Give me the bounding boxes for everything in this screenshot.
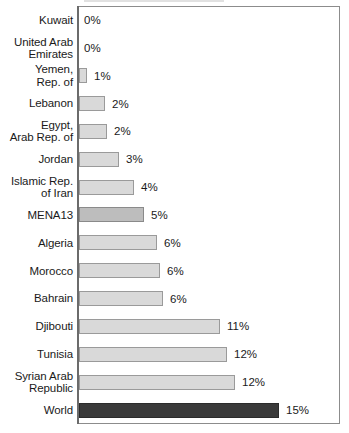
bar-row: World15% — [0, 396, 349, 424]
bar-row: Jordan3% — [0, 145, 349, 173]
bar-value-label: 2% — [114, 125, 131, 137]
category-label: Yemen, Rep. of — [0, 63, 73, 87]
scan-artifact-line — [84, 0, 224, 2]
category-label: Djibouti — [0, 320, 73, 332]
bar-row: Bahrain6% — [0, 285, 349, 313]
bar-and-value: 0% — [79, 12, 101, 28]
bar-row: MENA135% — [0, 201, 349, 229]
bar-value-label: 11% — [227, 320, 249, 332]
bar — [79, 319, 220, 334]
bar-and-value: 12% — [79, 346, 257, 362]
bar-and-value: 11% — [79, 318, 249, 334]
bar-and-value: 3% — [79, 151, 143, 167]
category-label: Islamic Rep. of Iran — [0, 175, 73, 199]
bar — [79, 375, 235, 390]
bar-and-value: 6% — [79, 235, 181, 251]
bar-and-value: 2% — [79, 96, 129, 112]
bar-value-label: 12% — [234, 348, 257, 360]
bar-row: Egypt, Arab Rep. of2% — [0, 117, 349, 145]
bar-and-value: 6% — [79, 263, 184, 279]
bar — [79, 207, 144, 222]
category-label: Syrian Arab Republic — [0, 370, 73, 394]
bar-and-value: 15% — [79, 402, 309, 418]
bar-value-label: 1% — [94, 70, 111, 82]
category-label: Kuwait — [0, 14, 73, 26]
bar — [79, 124, 107, 139]
bar — [79, 235, 157, 250]
bar-value-label: 5% — [151, 209, 168, 221]
category-label: MENA13 — [0, 209, 73, 221]
bar — [79, 180, 134, 195]
bar — [79, 96, 105, 111]
category-label: Morocco — [0, 265, 73, 277]
category-label: Bahrain — [0, 292, 73, 304]
bar-row: Yemen, Rep. of1% — [0, 62, 349, 90]
bar-value-label: 2% — [112, 98, 129, 110]
bar — [79, 347, 227, 362]
category-label: Tunisia — [0, 348, 73, 360]
bar-value-label: 15% — [286, 404, 309, 416]
bar-and-value: 0% — [79, 40, 101, 56]
bar-row: Morocco6% — [0, 257, 349, 285]
bar-row: Algeria6% — [0, 229, 349, 257]
bar-row: Tunisia12% — [0, 340, 349, 368]
bar-value-label: 6% — [170, 293, 187, 305]
category-label: World — [0, 404, 73, 416]
category-label: Jordan — [0, 153, 73, 165]
bar — [79, 403, 279, 418]
bar-and-value: 6% — [79, 291, 187, 307]
bar-value-label: 4% — [141, 181, 158, 193]
bar-and-value: 4% — [79, 179, 158, 195]
bar-value-label: 3% — [126, 153, 143, 165]
category-label: Egypt, Arab Rep. of — [0, 119, 73, 143]
bar-row: Lebanon2% — [0, 90, 349, 118]
bar-value-label: 6% — [164, 237, 181, 249]
bar-row: Djibouti11% — [0, 313, 349, 341]
bar — [79, 263, 160, 278]
bar — [79, 68, 87, 83]
bar-and-value: 1% — [79, 68, 111, 84]
bar — [79, 152, 119, 167]
bar-value-label: 0% — [84, 14, 101, 26]
bar-value-label: 6% — [167, 265, 184, 277]
bar-row: Islamic Rep. of Iran4% — [0, 173, 349, 201]
bar-row: Kuwait0% — [0, 6, 349, 34]
category-label: Lebanon — [0, 97, 73, 109]
bar-row: Syrian Arab Republic12% — [0, 368, 349, 396]
bar-and-value: 5% — [79, 207, 168, 223]
bar — [79, 291, 163, 306]
category-label: Algeria — [0, 237, 73, 249]
bar-rows-container: Kuwait0%United Arab Emirates0%Yemen, Rep… — [0, 6, 349, 424]
category-label: United Arab Emirates — [0, 36, 73, 60]
bar-row: United Arab Emirates0% — [0, 34, 349, 62]
horizontal-bar-chart: Kuwait0%United Arab Emirates0%Yemen, Rep… — [0, 0, 349, 433]
bar-and-value: 12% — [79, 374, 265, 390]
bar-value-label: 0% — [84, 42, 101, 54]
bar-and-value: 2% — [79, 123, 131, 139]
bar-value-label: 12% — [242, 376, 265, 388]
